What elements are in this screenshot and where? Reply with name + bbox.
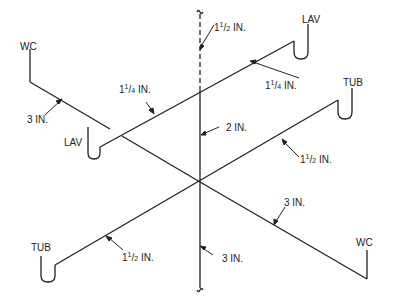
size-label-stack-lower: 3 IN. bbox=[222, 254, 243, 264]
plumbing-diagram: WC LAV TUB LAV TUB WC 11/2 IN. 11/4 IN. … bbox=[0, 0, 393, 301]
fixture-label-lav-left: LAV bbox=[64, 138, 82, 148]
tub-left-trap bbox=[41, 256, 55, 282]
break-symbol-bottom bbox=[197, 289, 203, 292]
break-symbol-top bbox=[197, 11, 203, 14]
fixture-label-tub-left: TUB bbox=[31, 243, 51, 253]
size-label-wc-left: 3 IN. bbox=[27, 115, 48, 125]
size-label-lav-upper-left: 11/4 IN. bbox=[119, 83, 151, 95]
size-label-tub-right: 11/2 IN. bbox=[300, 153, 332, 165]
size-label-lav-upper-right: 11/4 IN. bbox=[265, 79, 297, 91]
fixture-label-tub-right: TUB bbox=[343, 78, 363, 88]
tub-right-trap bbox=[338, 88, 352, 119]
size-label-vent: 11/2 IN. bbox=[214, 21, 246, 33]
lav-left-trap bbox=[88, 127, 100, 159]
size-label-tub-left: 11/2 IN. bbox=[122, 251, 154, 263]
tub-branch bbox=[55, 100, 338, 265]
fixture-label-lav-right: LAV bbox=[302, 15, 320, 25]
size-label-stack-upper: 2 IN. bbox=[226, 123, 247, 133]
wc-branch-center bbox=[122, 136, 200, 182]
fixture-label-wc-right: WC bbox=[356, 238, 373, 248]
fixture-label-wc-left: WC bbox=[20, 42, 37, 52]
size-label-wc-right: 3 IN. bbox=[284, 198, 305, 208]
lav-right-trap bbox=[294, 24, 308, 59]
diagram-lines bbox=[0, 0, 393, 301]
